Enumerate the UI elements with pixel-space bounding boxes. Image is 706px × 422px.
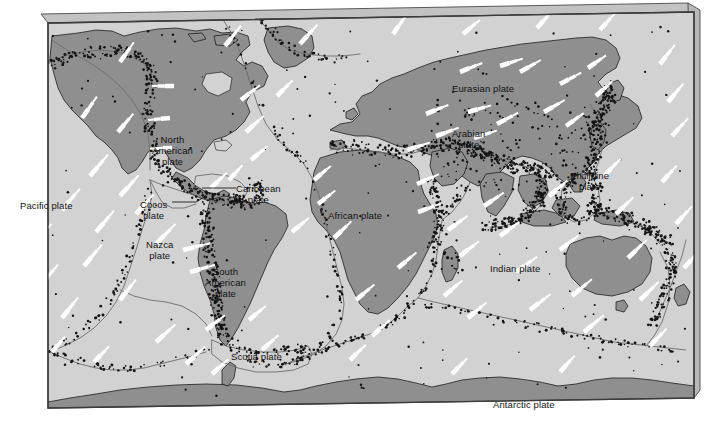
epicenter-dot: [433, 139, 435, 141]
epicenter-dot: [502, 140, 504, 142]
epicenter-dot: [526, 210, 528, 212]
epicenter-dot: [195, 195, 198, 198]
arrow-shaft-segment: [407, 147, 417, 150]
epicenter-dot: [593, 206, 595, 208]
epicenter-dot: [483, 152, 485, 154]
epicenter-dot: [451, 203, 453, 205]
epicenter-dot: [405, 181, 407, 183]
epicenter-dot: [152, 92, 154, 94]
arrow-shaft-segment: [154, 119, 161, 120]
epicenter-dot: [110, 303, 112, 305]
epicenter-dot: [583, 165, 586, 168]
epicenter-dot: [85, 324, 87, 326]
epicenter-dot: [305, 197, 307, 199]
epicenter-dot: [594, 153, 597, 156]
epicenter-dot: [588, 182, 590, 184]
epicenter-dot: [208, 245, 210, 247]
epicenter-dot: [145, 112, 148, 115]
epicenter-dot: [336, 273, 338, 275]
epicenter-dot: [282, 345, 285, 348]
epicenter-dot: [437, 220, 439, 222]
epicenter-dot: [195, 188, 197, 190]
epicenter-dot: [58, 58, 60, 60]
epicenter-dot: [340, 57, 342, 59]
epicenter-dot: [516, 163, 518, 165]
epicenter-dot: [116, 280, 118, 282]
epicenter-dot: [432, 263, 434, 265]
epicenter-dot: [652, 226, 654, 228]
epicenter-dot: [439, 144, 442, 147]
epicenter-dot: [515, 220, 517, 222]
epicenter-dot: [634, 342, 637, 345]
epicenter-dot: [129, 368, 132, 371]
epicenter-dot: [565, 216, 567, 218]
epicenter-dot: [495, 229, 497, 231]
epicenter-dot: [451, 257, 453, 259]
epicenter-dot: [71, 107, 73, 109]
epicenter-dot: [349, 31, 351, 33]
epicenter-dot: [674, 276, 676, 278]
epicenter-dot: [674, 255, 676, 257]
epicenter-dot: [457, 152, 459, 154]
epicenter-dot: [486, 316, 488, 318]
epicenter-dot: [291, 151, 293, 153]
epicenter-dot: [161, 165, 163, 167]
epicenter-dot: [94, 317, 97, 320]
epicenter-dot: [606, 104, 608, 106]
epicenter-dot: [336, 58, 338, 60]
epicenter-dot: [55, 57, 57, 59]
epicenter-dot: [464, 109, 466, 111]
epicenter-dot: [144, 209, 146, 211]
epicenter-dot: [87, 38, 89, 40]
epicenter-dot: [208, 217, 211, 220]
epicenter-dot: [190, 363, 193, 366]
epicenter-dot: [525, 169, 528, 172]
epicenter-dot: [72, 51, 74, 53]
epicenter-dot: [513, 162, 515, 164]
epicenter-dot: [110, 364, 113, 367]
epicenter-dot: [375, 295, 377, 297]
epicenter-dot: [268, 364, 270, 366]
epicenter-dot: [458, 136, 460, 138]
epicenter-dot: [565, 206, 568, 209]
arrow-shaft-segment: [484, 133, 491, 135]
epicenter-dot: [361, 141, 363, 143]
epicenter-dot: [593, 177, 595, 179]
epicenter-dot: [353, 140, 355, 142]
epicenter-dot: [606, 141, 609, 144]
epicenter-dot: [500, 133, 502, 135]
epicenter-dot: [555, 327, 557, 329]
epicenter-dot: [131, 247, 134, 250]
epicenter-dot: [586, 204, 589, 207]
epicenter-dot: [461, 269, 464, 272]
epicenter-dot: [158, 169, 160, 171]
epicenter-dot: [276, 135, 278, 137]
epicenter-dot: [207, 236, 209, 238]
epicenter-dot: [499, 253, 501, 255]
epicenter-dot: [149, 113, 152, 116]
epicenter-dot: [203, 256, 205, 258]
epicenter-dot: [209, 198, 211, 200]
epicenter-dot: [195, 186, 197, 188]
epicenter-dot: [467, 310, 469, 312]
epicenter-dot: [333, 247, 335, 249]
epicenter-dot: [66, 61, 68, 63]
epicenter-dot: [302, 348, 305, 351]
epicenter-dot: [219, 284, 221, 286]
epicenter-dot: [601, 112, 603, 114]
epicenter-dot: [261, 194, 264, 197]
epicenter-dot: [549, 273, 550, 274]
epicenter-dot: [203, 203, 205, 205]
epicenter-dot: [99, 47, 102, 50]
epicenter-dot: [236, 347, 238, 349]
epicenter-dot: [216, 327, 218, 329]
epicenter-dot: [292, 118, 294, 120]
epicenter-dot: [536, 179, 538, 181]
epicenter-dot: [156, 152, 158, 154]
epicenter-dot: [67, 191, 70, 194]
epicenter-dot: [503, 217, 506, 220]
epicenter-dot: [326, 295, 329, 298]
epicenter-dot: [492, 155, 494, 157]
epicenter-dot: [334, 254, 336, 256]
epicenter-dot: [218, 328, 220, 330]
